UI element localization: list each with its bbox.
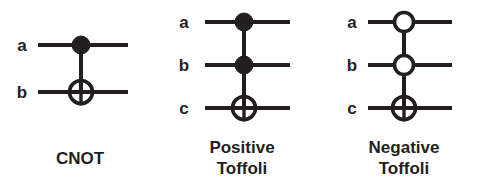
gate-caption-line: CNOT [0, 148, 160, 169]
gate-caption-line: Negative [324, 137, 484, 158]
control-dot-filled-a [235, 13, 253, 31]
gate-caption-negative-toffoli: Negative Toffoli [324, 137, 484, 179]
gate-caption-line: Toffoli [160, 158, 324, 179]
positive-toffoli-circuit-svg [160, 0, 324, 140]
gate-caption-positive-toffoli: Positive Toffoli [160, 137, 324, 179]
gate-diagram-cnot: a b CNOT [0, 0, 160, 189]
negative-toffoli-circuit-svg [324, 0, 484, 140]
cnot-circuit-svg [0, 0, 160, 140]
control-dot-filled-b [235, 56, 253, 74]
control-dot-open-b [395, 56, 414, 75]
gate-diagram-positive-toffoli: a b c Positive Toffoli [160, 0, 324, 189]
control-dot-open-a [395, 13, 414, 32]
gate-caption-line: Toffoli [324, 158, 484, 179]
quantum-gate-figure: a b CNOT a b c [0, 0, 484, 189]
control-dot-filled [72, 36, 90, 54]
gate-caption-line: Positive [160, 137, 324, 158]
gate-diagram-negative-toffoli: a b c Negative Toffoli [324, 0, 484, 189]
gate-caption-cnot: CNOT [0, 148, 160, 169]
